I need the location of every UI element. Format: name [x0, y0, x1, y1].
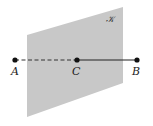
point-c — [74, 57, 79, 62]
geometry-diagram: 𝒦 A C B — [0, 0, 153, 126]
label-c: C — [72, 65, 81, 78]
point-b — [134, 57, 139, 62]
label-a: A — [10, 65, 19, 78]
point-a — [12, 57, 17, 62]
label-b: B — [131, 65, 140, 78]
